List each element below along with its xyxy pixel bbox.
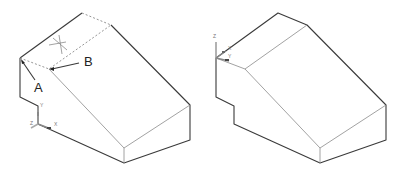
slope-edge	[49, 69, 124, 148]
front-face-edge	[320, 105, 386, 163]
left-figure: A B Y X Z	[20, 13, 190, 163]
svg-text:Y: Y	[40, 102, 44, 108]
hidden-edges	[20, 25, 111, 69]
leader-b	[52, 63, 79, 69]
svg-text:Z: Z	[30, 120, 33, 126]
top-back-dashed-edge	[82, 13, 111, 25]
top-left-edge	[20, 13, 82, 58]
svg-text:X: X	[54, 121, 58, 127]
svg-text:Y: Y	[228, 53, 232, 59]
ridge-edge	[245, 25, 307, 69]
front-face-edge	[124, 105, 190, 163]
cross-marker-icon	[49, 35, 67, 54]
outline	[20, 25, 190, 163]
label-a: A	[34, 80, 43, 95]
ucs-icon: Z X Y	[213, 33, 232, 61]
outline	[216, 13, 386, 163]
diagram-canvas: A B Y X Z Z X Y	[0, 0, 404, 171]
label-b: B	[84, 54, 93, 69]
slope-edge	[216, 58, 320, 148]
leader-a	[22, 61, 35, 80]
svg-text:Z: Z	[213, 33, 216, 39]
ucs-icon: Y X Z	[30, 102, 58, 129]
svg-text:X: X	[228, 45, 232, 51]
right-figure: Z X Y	[213, 13, 386, 163]
